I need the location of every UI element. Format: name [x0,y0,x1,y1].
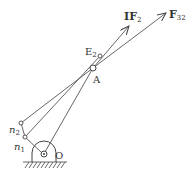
joint-n2 [19,121,23,125]
force-IF2 [93,26,129,68]
label-F32: F32 [169,8,186,22]
label-A: A [92,74,101,85]
ground-hatch [23,162,67,168]
joint-E2 [98,54,102,58]
mechanism-diagram: IF2 F32 E2 A O n2 n1 [0,0,192,184]
link-n1 [25,137,41,152]
label-O: O [55,150,63,161]
link-OA [45,68,93,152]
label-E2: E2 [85,46,97,59]
line-n2-A [21,68,93,123]
label-n2: n2 [9,124,20,137]
label-n1: n1 [14,141,25,154]
joint-n1 [23,135,27,139]
joint-A [90,65,96,71]
label-IF2: IF2 [124,10,141,24]
line-n1-E2 [25,56,100,137]
